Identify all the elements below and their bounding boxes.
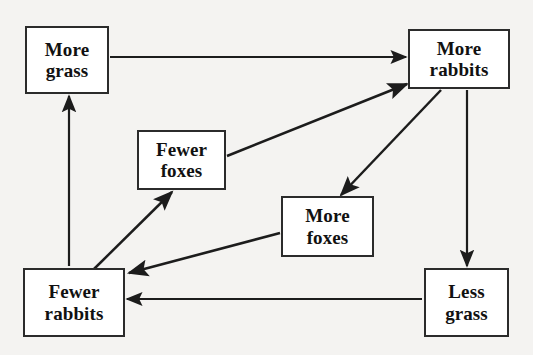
node-more-foxes-line1: More: [305, 205, 349, 226]
node-less-grass-line2: grass: [445, 303, 488, 324]
node-more-foxes-line2: foxes: [307, 227, 349, 248]
node-more-rabbits[interactable]: More rabbits: [408, 29, 510, 89]
node-more-grass-line1: More: [45, 39, 89, 60]
edge-fewer-foxes-to-more-rabbits: [227, 84, 407, 156]
node-more-foxes[interactable]: More foxes: [281, 196, 374, 257]
node-more-rabbits-line1: More: [437, 38, 481, 59]
node-fewer-foxes-line2: foxes: [161, 160, 203, 181]
node-less-grass-line1: Less: [448, 281, 484, 302]
node-fewer-foxes[interactable]: Fewer foxes: [137, 130, 226, 190]
edge-more-foxes-to-fewer-rabbits: [129, 233, 280, 273]
node-more-rabbits-line2: rabbits: [430, 59, 489, 80]
node-less-grass[interactable]: Less grass: [424, 268, 509, 337]
causal-loop-diagram: More grass More rabbits Fewer foxes More…: [0, 0, 533, 355]
node-fewer-rabbits[interactable]: Fewer rabbits: [23, 268, 125, 337]
node-fewer-rabbits-line1: Fewer: [48, 281, 99, 302]
node-fewer-foxes-line1: Fewer: [156, 139, 207, 160]
node-fewer-rabbits-line2: rabbits: [45, 303, 104, 324]
edge-fewer-rabbits-to-fewer-foxes: [94, 192, 172, 269]
node-more-grass-line2: grass: [46, 60, 89, 81]
node-more-grass[interactable]: More grass: [25, 26, 109, 94]
